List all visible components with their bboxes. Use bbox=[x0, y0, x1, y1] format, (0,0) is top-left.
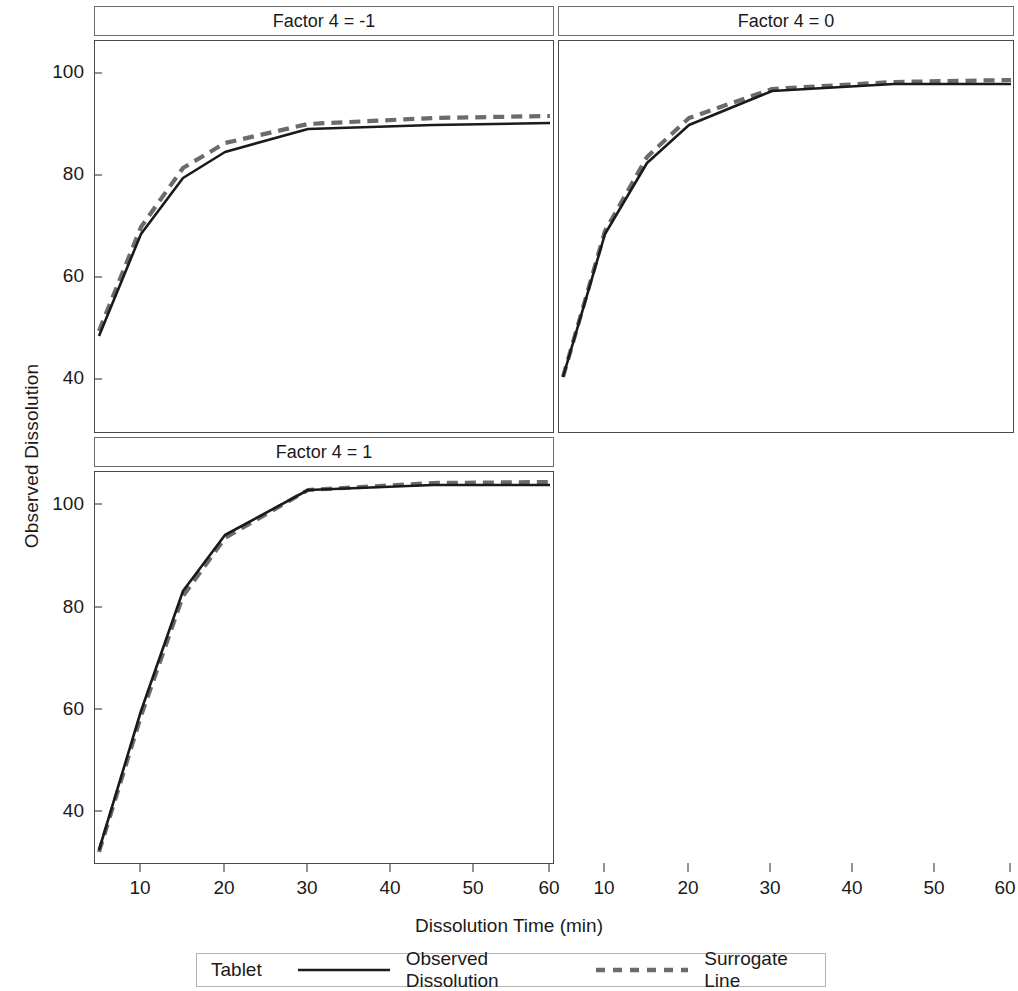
y-tick-marks bbox=[95, 504, 102, 811]
legend-label-observed: Observed Dissolution bbox=[406, 948, 561, 991]
y-tick-label-bottom-80: 80 bbox=[32, 597, 84, 616]
panel-strip-factor4-one: Factor 4 = 1 bbox=[94, 437, 554, 467]
y-tick-label-top-100: 100 bbox=[32, 62, 84, 81]
x-tick-label-left-60: 60 bbox=[529, 878, 569, 897]
y-tick-label-top-40: 40 bbox=[32, 368, 84, 387]
y-tick-label-top-60: 60 bbox=[32, 266, 84, 285]
x-tick-label-right-40: 40 bbox=[832, 878, 872, 897]
y-tick-label-top-80: 80 bbox=[32, 164, 84, 183]
x-tick-label-left-10: 10 bbox=[120, 878, 160, 897]
panel-strip-label: Factor 4 = -1 bbox=[273, 11, 376, 32]
x-tick-label-right-60: 60 bbox=[985, 878, 1018, 897]
x-axis-title: Dissolution Time (min) bbox=[0, 915, 1018, 937]
x-tick-label-left-20: 20 bbox=[204, 878, 244, 897]
panel-strip-factor4-zero: Factor 4 = 0 bbox=[558, 6, 1014, 36]
y-tick-label-bottom-100: 100 bbox=[32, 494, 84, 513]
panel-strip-factor4-minus1: Factor 4 = -1 bbox=[94, 6, 554, 36]
panel-strip-label: Factor 4 = 1 bbox=[276, 442, 373, 463]
legend-label-surrogate: Surrogate Line bbox=[704, 948, 811, 991]
panel-plot-area-zero bbox=[559, 41, 1013, 432]
legend-title: Tablet bbox=[211, 959, 262, 981]
x-axis-ticks-left bbox=[94, 863, 554, 875]
panel-factor4-minus1 bbox=[94, 40, 554, 433]
series-surrogate-line bbox=[99, 482, 550, 852]
panel-empty-bottom-right bbox=[558, 471, 1014, 864]
panel-factor4-one bbox=[94, 471, 554, 864]
x-tick-label-right-20: 20 bbox=[668, 878, 708, 897]
legend-swatch-solid bbox=[296, 963, 392, 977]
series-observed-dissolution bbox=[563, 84, 1011, 377]
x-tick-label-left-40: 40 bbox=[370, 878, 410, 897]
panel-strip-label: Factor 4 = 0 bbox=[738, 11, 835, 32]
panel-plot-area-minus1 bbox=[95, 41, 553, 432]
y-axis-title: Observed Dissolution bbox=[21, 306, 43, 606]
series-observed-dissolution bbox=[99, 123, 550, 336]
x-tick-label-right-10: 10 bbox=[584, 878, 624, 897]
legend: Tablet Observed Dissolution Surrogate Li… bbox=[196, 953, 826, 987]
x-axis-ticks-right bbox=[558, 863, 1014, 875]
y-tick-label-bottom-60: 60 bbox=[32, 699, 84, 718]
panel-factor4-zero bbox=[558, 40, 1014, 433]
series-surrogate-line bbox=[563, 80, 1011, 377]
x-tick-label-left-50: 50 bbox=[453, 878, 493, 897]
series-surrogate-line bbox=[99, 116, 550, 331]
dissolution-trellis-figure: Observed Dissolution Dissolution Time (m… bbox=[0, 0, 1018, 991]
legend-swatch-dashed bbox=[594, 963, 690, 977]
x-tick-label-left-30: 30 bbox=[287, 878, 327, 897]
panel-plot-area-one bbox=[95, 472, 553, 863]
x-tick-label-right-30: 30 bbox=[750, 878, 790, 897]
x-tick-label-right-50: 50 bbox=[914, 878, 954, 897]
series-observed-dissolution bbox=[99, 485, 550, 850]
y-tick-label-bottom-40: 40 bbox=[32, 801, 84, 820]
